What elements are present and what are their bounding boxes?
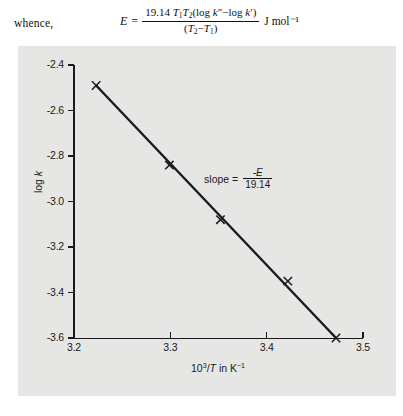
equation-equals-sign: = <box>131 14 138 29</box>
equation-denominator: (T2−T1) <box>181 22 220 37</box>
whence-label: whence, <box>14 17 53 29</box>
plot-area: -2.4-2.6-2.8-3.0-3.2-3.4-3.6 3.23.33.43.… <box>18 46 396 396</box>
slope-label: slope = <box>204 173 238 185</box>
data-point-marker <box>284 277 292 285</box>
data-layer <box>18 46 396 396</box>
equation-numerator: 19.14 T1T2(log k″−log k′) <box>142 6 259 21</box>
data-point-marker <box>332 334 340 342</box>
slope-fraction: -E 19.14 <box>243 167 272 191</box>
slope-denominator: 19.14 <box>243 179 272 191</box>
slope-numerator: -E <box>251 167 265 179</box>
slope-annotation: slope = -E 19.14 <box>204 167 272 191</box>
fit-line <box>96 85 336 338</box>
data-point-marker <box>92 81 100 89</box>
equation-units: J mol⁻¹ <box>264 14 299 28</box>
equation-fraction: 19.14 T1T2(log k″−log k′) (T2−T1) <box>142 6 259 36</box>
equation-lhs: E <box>120 14 127 29</box>
fit-line-group <box>96 85 336 338</box>
activation-energy-equation: E = 19.14 T1T2(log k″−log k′) (T2−T1) J … <box>120 6 299 36</box>
chart-panel: -2.4-2.6-2.8-3.0-3.2-3.4-3.6 3.23.33.43.… <box>18 46 396 396</box>
equation-row: whence, E = 19.14 T1T2(log k″−log k′) (T… <box>0 0 403 45</box>
